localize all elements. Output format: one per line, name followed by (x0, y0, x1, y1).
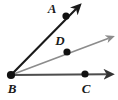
point-b-dot (7, 71, 15, 79)
point-a-dot (62, 12, 69, 19)
ray-bc (11, 74, 106, 75)
angle-diagram-canvas: A D C B (0, 0, 118, 100)
point-label-d: D (54, 33, 65, 48)
point-label-a: A (47, 1, 57, 16)
geometry-diagram: A D C B (0, 0, 118, 100)
point-c-dot (81, 70, 88, 77)
point-label-c: C (82, 81, 91, 96)
point-label-b: B (7, 81, 17, 96)
point-d-dot (63, 48, 70, 55)
